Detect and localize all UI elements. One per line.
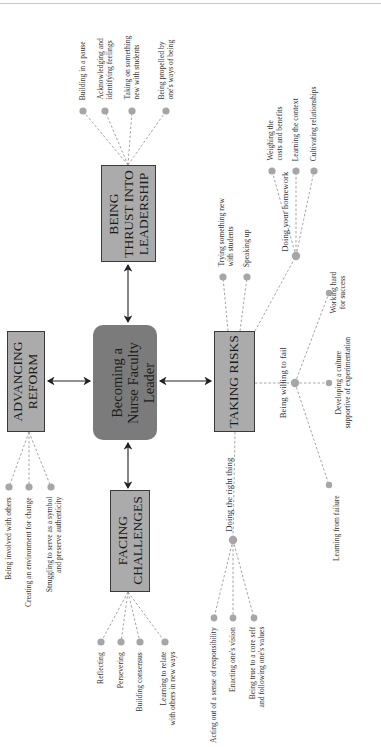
- dash-challenges-1: [121, 592, 128, 642]
- dash-risks-direct-0: [223, 277, 228, 331]
- node-homework-2: [310, 167, 317, 174]
- label-thrust-3: Being propelled by one's ways of being: [158, 0, 175, 100]
- dash-fail-0: [295, 293, 329, 383]
- label-homework-0: Weighing the costs and benefits: [267, 0, 284, 161]
- label-right-hub: Doing the right thing: [225, 332, 235, 532]
- label-reform-1: Creating an environment for change: [25, 497, 34, 697]
- label-homework-2: Cultivating relationships: [310, 0, 319, 161]
- label-challenges-1: Persevering: [117, 652, 126, 747]
- node-homework-1: [292, 167, 299, 174]
- node-right-hub: [229, 536, 237, 544]
- node-reform-1: [25, 483, 32, 490]
- node-challenges-3: [161, 638, 168, 645]
- theme-label-facing-challenges: FACING CHALLENGES: [115, 490, 146, 592]
- node-risks-direct-1: [243, 273, 250, 280]
- dash-thrust-0: [83, 111, 128, 165]
- label-risks-direct-0: Trying something new with students: [218, 67, 235, 267]
- label-risks-direct-1: Speaking up: [243, 67, 252, 267]
- dash-reform-0: [9, 432, 29, 487]
- node-challenges-0: [97, 638, 104, 645]
- dash-thrust-2: [128, 111, 132, 165]
- node-challenges-1: [117, 638, 124, 645]
- node-challenges-2: [136, 638, 143, 645]
- dash-risks-direct-1: [240, 277, 247, 331]
- central-concept-label: Becoming a Nurse Faculty Leader: [109, 326, 143, 441]
- dash-reform-2: [29, 432, 51, 487]
- label-fail-2: Learning from failure: [333, 495, 342, 695]
- node-right-1: [230, 615, 237, 622]
- dash-fail-2: [295, 383, 329, 485]
- label-reform-0: Being involved with others: [5, 497, 14, 697]
- label-thrust-2: Taking on something new with students: [124, 0, 141, 100]
- node-thrust-1: [101, 107, 108, 114]
- label-right-0: Acting out of a sense of responsibility: [210, 627, 219, 747]
- node-homework-0: [268, 167, 275, 174]
- label-challenges-2: Building consensus: [136, 652, 145, 747]
- node-risks-direct-0: [219, 273, 226, 280]
- dash-risks-homework: [255, 256, 296, 331]
- node-homework-hub: [292, 252, 300, 260]
- dash-challenges-3: [128, 592, 165, 642]
- label-right-1: Enacting one's vision: [229, 627, 238, 747]
- label-thrust-1: Acknowledging and identifying feelings: [97, 0, 114, 100]
- label-challenges-0: Reflecting: [97, 652, 106, 747]
- node-thrust-3: [162, 107, 169, 114]
- node-fail-hub: [291, 379, 299, 387]
- label-right-2: Being true to a core self and following …: [249, 627, 266, 747]
- dash-challenges-0: [101, 592, 128, 642]
- dash-homework-2: [296, 171, 314, 256]
- label-fail-1: Developing a culture supportive of exper…: [335, 283, 352, 483]
- node-reform-0: [5, 483, 12, 490]
- label-challenges-3: Learning to relate with others in new wa…: [160, 652, 177, 747]
- node-thrust-0: [79, 107, 86, 114]
- dash-thrust-1: [105, 111, 128, 165]
- label-thrust-0: Building in a pause: [79, 0, 88, 100]
- dash-right-0: [214, 540, 233, 618]
- theme-label-advancing-reform: ADVANCING REFORM: [10, 331, 41, 432]
- dash-right-2: [233, 540, 254, 618]
- theme-label-thrust-into-leadership: BEING THRUST INTO LEADERSHIP: [106, 166, 152, 263]
- label-reform-2: Struggling to serve as a symbol and pres…: [46, 497, 63, 697]
- node-right-2: [251, 615, 258, 622]
- node-fail-2: [326, 482, 332, 488]
- node-thrust-2: [128, 107, 135, 114]
- dash-thrust-3: [128, 111, 166, 165]
- label-homework-1: Learning the context: [292, 0, 301, 161]
- node-right-0: [211, 615, 218, 622]
- node-reform-2: [47, 483, 54, 490]
- label-fail-hub: Being willing to fail: [279, 283, 289, 483]
